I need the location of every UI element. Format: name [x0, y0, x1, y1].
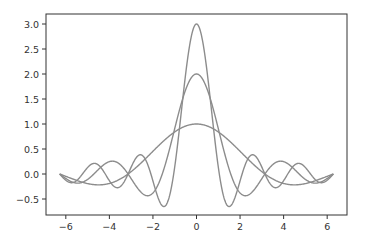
x-tick-label: 4 — [281, 221, 287, 232]
x-tick-label: 0 — [193, 221, 199, 232]
series-line-3 — [60, 24, 334, 207]
x-tick-label: 6 — [324, 221, 330, 232]
x-tick-label: −6 — [59, 221, 73, 232]
y-tick-label: 2.0 — [24, 69, 39, 80]
y-tick-label: −0.5 — [16, 194, 39, 205]
line-chart: −6−4−20246 −0.50.00.51.01.52.02.53.0 — [0, 0, 366, 244]
x-axis: −6−4−20246 — [59, 215, 330, 232]
y-tick-label: 0.0 — [24, 169, 39, 180]
y-tick-label: 2.5 — [24, 44, 39, 55]
series-line-2 — [60, 74, 334, 196]
y-tick-label: 1.5 — [24, 94, 39, 105]
y-tick-label: 3.0 — [24, 19, 39, 30]
y-tick-label: 0.5 — [24, 144, 39, 155]
series-line-1 — [60, 124, 334, 185]
x-tick-label: 2 — [237, 221, 243, 232]
y-axis: −0.50.00.51.01.52.02.53.0 — [16, 19, 46, 205]
plot-lines — [60, 24, 334, 207]
x-tick-label: −2 — [146, 221, 160, 232]
x-tick-label: −4 — [102, 221, 116, 232]
y-tick-label: 1.0 — [24, 119, 39, 130]
